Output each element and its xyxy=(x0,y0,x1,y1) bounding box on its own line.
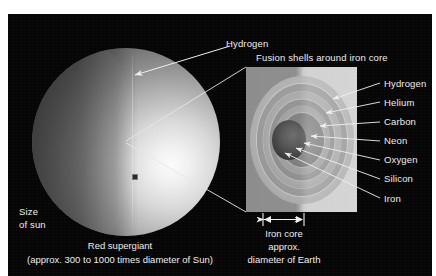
shell-label-carbon: Carbon xyxy=(384,116,416,127)
inset-title: Fusion shells around iron core xyxy=(256,52,388,63)
iron-core-caption-line2: approx. xyxy=(226,241,342,253)
supergiant-caption-title: Red supergiant xyxy=(8,240,232,252)
shell-label-helium: Helium xyxy=(384,97,414,108)
onion-shell-stack xyxy=(250,76,354,204)
iron-core-measure-arrow xyxy=(263,213,304,226)
supergiant-caption-subtitle: (approx. 300 to 1000 times diameter of S… xyxy=(8,254,232,266)
shell-label-oxygen: Oxygen xyxy=(384,154,418,165)
fusion-shell-inset-panel xyxy=(246,67,357,212)
diagram-plate: Hydrogen Fusion shells around iron core … xyxy=(8,14,432,276)
clipped-caption-above-figure: . . . . xyxy=(0,0,436,3)
shell-label-hydrogen: Hydrogen xyxy=(384,78,426,89)
size-of-sun-line2: of sun xyxy=(19,219,46,230)
red-supergiant-sphere xyxy=(32,48,220,236)
supergiant-core-marker xyxy=(132,174,138,180)
supergiant-cutaway-shading xyxy=(32,48,220,236)
figure-root: . . . . xyxy=(0,0,436,276)
shell-label-silicon: Silicon xyxy=(384,173,413,184)
label-hydrogen-supergiant: Hydrogen xyxy=(226,38,268,49)
shell-iron-core xyxy=(272,120,306,160)
supergiant-cut-plane-edge xyxy=(132,48,133,236)
shell-label-iron: Iron xyxy=(384,193,401,204)
shell-label-neon: Neon xyxy=(384,135,407,146)
iron-core-caption-line1: Iron core xyxy=(226,228,342,240)
iron-core-caption-line3: diameter of Earth xyxy=(218,254,350,266)
size-of-sun-line1: Size xyxy=(19,206,38,217)
